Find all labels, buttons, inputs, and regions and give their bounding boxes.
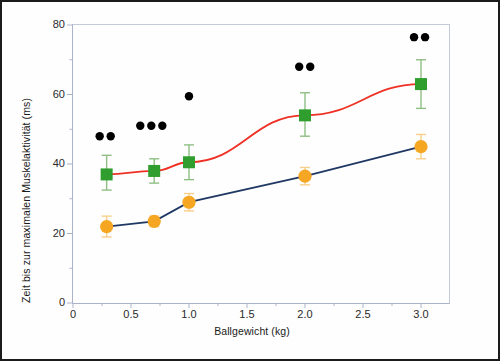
axis-tick-marks [67,25,421,308]
chart-canvas [2,2,500,361]
error-bars [102,60,426,237]
trend-lines [107,84,421,226]
significance-dots [95,33,429,140]
data-point-markers [100,78,428,233]
chart-figure: Zeit bis zur maximalen Muskelaktivität (… [0,0,500,361]
